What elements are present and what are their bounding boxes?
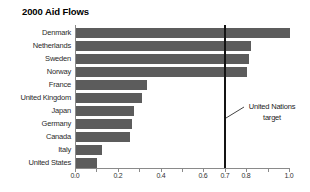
un-target-line (224, 25, 226, 168)
aid-flows-chart: 2000 Aid Flows DenmarkNetherlandsSwedenN… (0, 0, 310, 192)
x-tick-label: 0.0 (65, 172, 85, 179)
bar (76, 158, 97, 168)
category-label: Italy (0, 145, 75, 155)
bar (76, 28, 290, 38)
x-tick-label: 0.7 (215, 172, 235, 179)
category-label: Sweden (0, 54, 75, 64)
category-label: United States (0, 158, 75, 168)
bar (76, 106, 134, 116)
category-label: Denmark (0, 28, 75, 38)
un-target-annotation: United Nations target (240, 101, 304, 123)
un-target-annotation-line2: target (240, 112, 304, 123)
category-label: Japan (0, 106, 75, 116)
bar (76, 80, 147, 90)
x-axis-tick (139, 169, 140, 172)
bar (76, 67, 247, 77)
x-tick-label: 1.0 (279, 172, 299, 179)
x-axis-tick (182, 169, 183, 172)
x-tick-label: 0.6 (193, 172, 213, 179)
bar (76, 119, 132, 129)
category-label: Canada (0, 132, 75, 142)
x-axis-tick (268, 169, 269, 172)
category-label: France (0, 80, 75, 90)
bar (76, 93, 142, 103)
category-label: Germany (0, 119, 75, 129)
x-tick-label: 0.2 (108, 172, 128, 179)
x-tick-label: 0.8 (236, 172, 256, 179)
bar (76, 145, 102, 155)
chart-title: 2000 Aid Flows (22, 6, 89, 17)
un-target-annotation-line1: United Nations (240, 101, 304, 112)
x-axis-tick (96, 169, 97, 172)
category-label: United Kingdom (0, 93, 75, 103)
category-label: Norway (0, 67, 75, 77)
bar (76, 132, 130, 142)
category-label: Netherlands (0, 41, 75, 51)
x-tick-label: 0.4 (151, 172, 171, 179)
